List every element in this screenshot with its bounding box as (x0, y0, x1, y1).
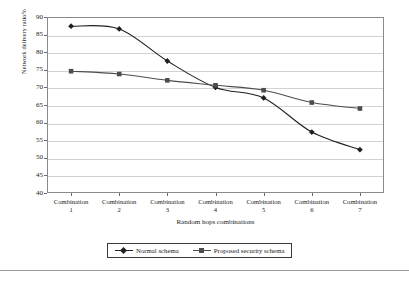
line-chart: 4045505560657075808590 Network delivery … (0, 0, 409, 262)
x-tick-mark (119, 193, 120, 196)
y-tick-label: 40 (21, 190, 43, 197)
x-tick-label-line1: Combination (332, 198, 388, 206)
legend-label: Proposed security schema (214, 247, 285, 254)
x-tick-label: Combination7 (332, 198, 388, 214)
figure: 4045505560657075808590 Network delivery … (0, 0, 409, 281)
x-tick-mark (167, 193, 168, 196)
legend-entry-2[interactable]: Proposed security schema (193, 246, 285, 255)
y-tick-label: 45 (21, 172, 43, 179)
y-tick-label: 50 (21, 154, 43, 161)
data-point-square (261, 88, 266, 93)
x-axis-title: Random hops combinations (47, 218, 384, 226)
x-tick-mark (360, 193, 361, 196)
data-point-diamond (164, 58, 170, 64)
legend-swatch (193, 246, 211, 255)
data-point-square (69, 69, 74, 74)
y-tick-label: 60 (21, 119, 43, 126)
data-point-diamond (309, 129, 315, 135)
x-tick-mark (264, 193, 265, 196)
x-tick-mark (71, 193, 72, 196)
legend-marker-square (199, 248, 204, 253)
legend-label: Normal schema (136, 247, 179, 254)
data-point-square (117, 72, 122, 77)
data-point-square (213, 83, 218, 88)
data-point-square (309, 100, 314, 105)
data-point-square (165, 78, 170, 83)
data-point-diamond (357, 147, 363, 153)
data-point-square (358, 106, 363, 111)
x-tick-label-line2: 7 (332, 206, 388, 214)
y-tick-mark (44, 193, 47, 194)
chart-legend: Normal schemaProposed security schema (107, 243, 292, 258)
data-point-diamond (116, 26, 122, 32)
data-point-diamond (261, 95, 267, 101)
legend-marker-diamond (120, 246, 127, 253)
x-tick-mark (216, 193, 217, 196)
y-tick-label: 55 (21, 137, 43, 144)
legend-entry-1[interactable]: Normal schema (115, 246, 179, 255)
series-layer (47, 17, 384, 193)
data-point-diamond (68, 23, 74, 29)
caption-divider (0, 270, 409, 271)
y-axis-title: Network delivery ratio% (20, 0, 27, 107)
x-tick-mark (312, 193, 313, 196)
series-1 (68, 23, 363, 152)
legend-swatch (115, 246, 133, 255)
